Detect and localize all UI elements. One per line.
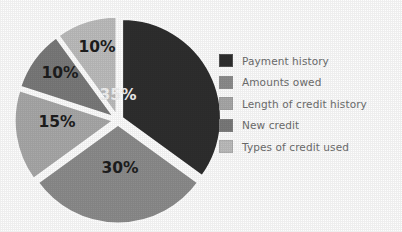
pie-slice-label-amounts-owed: 30%: [101, 159, 139, 177]
pie-slice-label-payment-history: 35%: [99, 86, 137, 104]
pie-slice-label-new-credit: 10%: [41, 64, 79, 82]
legend-swatch-icon: [219, 119, 233, 132]
pie-chart-figure: 35%30%15%10%10% Payment historyAmounts o…: [0, 0, 402, 232]
legend-item-label: Types of credit used: [242, 141, 349, 153]
pie-slice-label-length-of-credit-history: 15%: [38, 113, 76, 131]
legend-item-label: New credit: [242, 119, 299, 131]
chart-legend: Payment historyAmounts owedLength of cre…: [219, 50, 399, 158]
legend-item: Types of credit used: [219, 136, 399, 158]
legend-item: Payment history: [219, 50, 399, 72]
legend-item-label: Amounts owed: [242, 76, 321, 88]
legend-item: New credit: [219, 115, 399, 137]
pie-slice-label-types-of-credit-used: 10%: [78, 38, 116, 56]
legend-item-label: Payment history: [242, 55, 329, 67]
legend-item-label: Length of credit history: [242, 98, 367, 110]
legend-swatch-icon: [219, 54, 233, 67]
legend-swatch-icon: [219, 76, 233, 89]
pie-chart-plot-area: 35%30%15%10%10%: [14, 8, 226, 228]
legend-item: Length of credit history: [219, 93, 399, 115]
legend-swatch-icon: [219, 140, 233, 153]
legend-swatch-icon: [219, 97, 233, 110]
pie-chart-svg: 35%30%15%10%10%: [14, 8, 226, 228]
legend-item: Amounts owed: [219, 72, 399, 94]
